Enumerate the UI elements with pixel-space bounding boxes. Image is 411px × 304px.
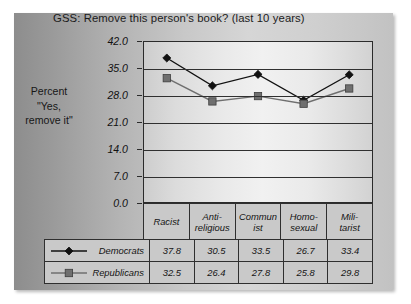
data-point-republicans bbox=[346, 85, 353, 92]
data-point-republicans bbox=[163, 75, 170, 82]
table-row: Republicans32.526.427.825.829.8 bbox=[45, 262, 373, 284]
y-tick-label: 42.0 bbox=[88, 35, 128, 47]
y-tick-label: 28.0 bbox=[88, 89, 128, 101]
category-header-line: ist bbox=[237, 222, 280, 234]
category-header-cell: Racist bbox=[144, 204, 190, 241]
value-cell: 32.5 bbox=[150, 262, 195, 284]
value-cell: 29.8 bbox=[328, 262, 373, 284]
y-axis-label-line-2: "Yes, bbox=[6, 99, 92, 114]
category-header-line: tarist bbox=[328, 222, 371, 234]
value-cell: 26.4 bbox=[194, 262, 239, 284]
value-cell: 30.5 bbox=[194, 240, 239, 262]
category-header-line: religious bbox=[191, 222, 234, 234]
y-tick-label: 35.0 bbox=[88, 62, 128, 74]
legend-cell-democrats: Democrats bbox=[45, 240, 150, 262]
y-axis-label-line-1: Percent bbox=[6, 84, 92, 99]
gridline bbox=[144, 150, 372, 151]
category-header-cell: Communist bbox=[235, 204, 281, 241]
y-axis-label: Percent "Yes, remove it" bbox=[6, 84, 92, 128]
category-header-line: sexual bbox=[282, 222, 325, 234]
plot-area bbox=[143, 41, 373, 203]
y-axis-tick-labels: 42.035.028.021.014.07.00.0 bbox=[88, 41, 128, 203]
category-header-line: Commun bbox=[237, 211, 280, 223]
value-cell: 37.8 bbox=[150, 240, 195, 262]
data-point-democrats bbox=[254, 70, 262, 78]
category-header-table: RacistAnti-religiousCommunistHomo-sexual… bbox=[143, 203, 373, 241]
chart-title: GSS: Remove this person's book? (last 10… bbox=[53, 12, 383, 24]
legend-cell-republicans: Republicans bbox=[45, 262, 150, 284]
gridline bbox=[144, 69, 372, 70]
table-row: Democrats37.830.533.526.733.4 bbox=[45, 240, 373, 262]
value-cell: 26.7 bbox=[283, 240, 328, 262]
data-point-democrats bbox=[163, 54, 171, 62]
y-tick-label: 7.0 bbox=[88, 170, 128, 182]
category-header-line: Racist bbox=[145, 216, 188, 228]
value-cell: 33.4 bbox=[328, 240, 373, 262]
y-tick-label: 14.0 bbox=[88, 143, 128, 155]
data-point-democrats bbox=[345, 71, 353, 79]
plot-svg bbox=[144, 42, 372, 202]
category-header-line: Anti- bbox=[191, 211, 234, 223]
legend-marker-square-icon bbox=[50, 267, 88, 278]
data-point-democrats bbox=[208, 82, 216, 90]
value-cell: 27.8 bbox=[239, 262, 284, 284]
category-header-cell: Anti-religious bbox=[189, 204, 235, 241]
chart-page: GSS: Remove this person's book? (last 10… bbox=[0, 0, 411, 304]
category-header-line: Homo- bbox=[282, 211, 325, 223]
legend-label: Democrats bbox=[99, 245, 144, 256]
y-axis-label-line-3: remove it" bbox=[6, 113, 92, 128]
y-tick-label: 0.0 bbox=[88, 197, 128, 209]
legend-marker-diamond-icon bbox=[50, 245, 88, 256]
value-cell: 25.8 bbox=[283, 262, 328, 284]
y-tick-label: 21.0 bbox=[88, 116, 128, 128]
category-header-row: RacistAnti-religiousCommunistHomo-sexual… bbox=[144, 204, 373, 241]
legend-label: Republicans bbox=[92, 267, 144, 278]
value-cell: 33.5 bbox=[239, 240, 284, 262]
data-point-republicans bbox=[300, 100, 307, 107]
gridline bbox=[144, 96, 372, 97]
gridline bbox=[144, 177, 372, 178]
data-point-republicans bbox=[209, 98, 216, 105]
gridline bbox=[144, 123, 372, 124]
category-header-line: Mili- bbox=[328, 211, 371, 223]
category-header-cell: Mili-tarist bbox=[327, 204, 373, 241]
category-header-cell: Homo-sexual bbox=[281, 204, 327, 241]
legend-data-table: Democrats37.830.533.526.733.4Republicans… bbox=[44, 239, 373, 284]
